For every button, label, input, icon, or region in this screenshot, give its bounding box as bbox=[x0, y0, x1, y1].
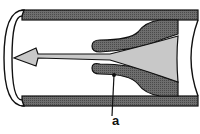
diagram-graphic bbox=[0, 0, 200, 134]
vein-valve-diagram: a bbox=[0, 0, 200, 134]
label-a: a bbox=[112, 113, 119, 128]
